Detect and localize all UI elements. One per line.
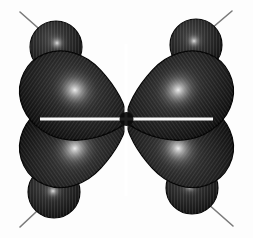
orbital-figure-canvas: d-orbital isosurface (four-lobe, dxy typ… xyxy=(0,0,253,238)
orbital-diagram xyxy=(0,0,253,238)
origin-node xyxy=(120,112,134,126)
